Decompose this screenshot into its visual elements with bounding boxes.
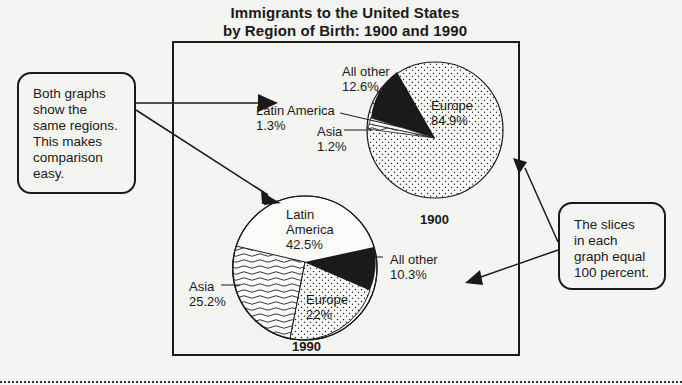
callout-same-regions: Both graphs show the same regions. This …: [17, 72, 136, 194]
callout-same-regions-text: Both graphs show the same regions. This …: [33, 86, 124, 182]
year-label-1990: 1990: [292, 339, 321, 354]
year-label-1900: 1900: [420, 212, 449, 227]
dotted-divider: [0, 381, 682, 383]
callout-hundred-percent-text: The slices in each graph equal 100 perce…: [574, 217, 656, 281]
label-1990-latin-america: Latin America 42.5%: [286, 207, 334, 252]
label-1900-all-other: All other 12.6%: [342, 64, 390, 94]
label-1900-europe: Europe 84.9%: [431, 98, 473, 128]
label-1990-all-other: All other 10.3%: [390, 252, 438, 282]
label-1990-asia: Asia 25.2%: [189, 279, 226, 309]
callout-hundred-percent: The slices in each graph equal 100 perce…: [558, 202, 666, 290]
label-1900-asia: Asia 1.2%: [317, 124, 347, 154]
label-1990-europe: Europe 22%: [306, 292, 348, 322]
